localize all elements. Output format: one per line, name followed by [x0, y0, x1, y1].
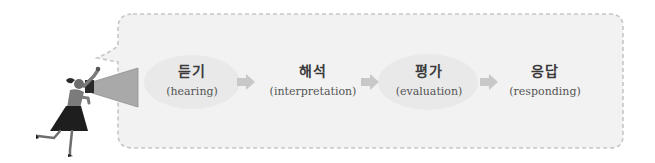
step-korean-label: 평가	[364, 62, 494, 80]
listening-process-diagram: 듣기 (hearing) 해석 (interpretation) 평가 (eva…	[0, 0, 655, 163]
step-responding: 응답 (responding)	[480, 62, 610, 100]
step-korean-label: 듣기	[127, 62, 257, 80]
step-hearing: 듣기 (hearing)	[127, 62, 257, 100]
step-korean-label: 해석	[248, 62, 378, 80]
step-english-label: (responding)	[480, 84, 610, 100]
step-evaluation: 평가 (evaluation)	[364, 62, 494, 100]
step-interpretation: 해석 (interpretation)	[248, 62, 378, 100]
step-english-label: (hearing)	[127, 84, 257, 100]
step-korean-label: 응답	[480, 62, 610, 80]
step-english-label: (evaluation)	[364, 84, 494, 100]
step-english-label: (interpretation)	[248, 84, 378, 100]
